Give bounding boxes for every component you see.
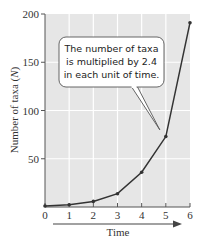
y-tick-label: 50 <box>28 153 40 165</box>
x-tick-label: 1 <box>66 209 72 221</box>
data-point <box>164 135 168 139</box>
x-tick-label: 2 <box>91 209 97 221</box>
callout-text-line: is multiplied by 2.4 <box>66 56 157 67</box>
data-point <box>67 203 71 207</box>
y-axis-ticks: 50100150200 <box>23 8 46 165</box>
data-point <box>116 192 120 196</box>
x-tick-label: 3 <box>115 209 121 221</box>
callout-text-line: in each unit of time. <box>64 69 160 80</box>
x-axis-label: Time <box>107 226 130 238</box>
data-point <box>188 21 192 25</box>
x-tick-label: 0 <box>42 209 48 221</box>
data-point <box>92 200 96 204</box>
x-tick-label: 5 <box>163 209 169 221</box>
callout-text-line: The number of taxa <box>64 43 159 54</box>
y-tick-label: 100 <box>23 105 40 117</box>
data-point <box>43 204 47 208</box>
x-tick-label: 4 <box>139 209 145 221</box>
chart: 50100150200 0123456 The number of taxais… <box>0 0 199 239</box>
y-tick-label: 200 <box>23 8 40 20</box>
data-point <box>140 170 144 174</box>
callout-join <box>132 84 137 88</box>
y-axis-label: Number of taxa (N) <box>8 66 21 153</box>
x-tick-label: 6 <box>187 209 193 221</box>
y-tick-label: 150 <box>23 56 40 68</box>
